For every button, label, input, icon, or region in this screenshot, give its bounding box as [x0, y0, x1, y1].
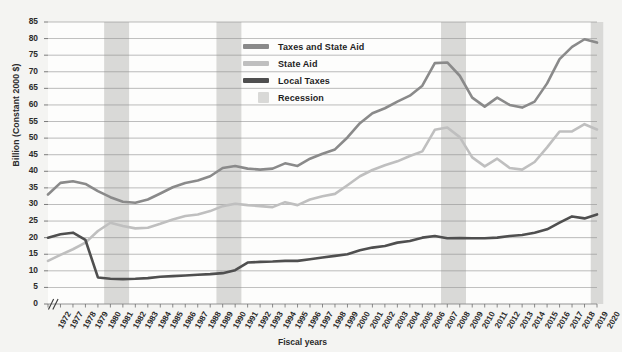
y-tick-label: 35 — [14, 182, 38, 192]
recession-band — [591, 22, 603, 304]
recession-band — [441, 22, 466, 304]
y-tick-label: 15 — [14, 248, 38, 258]
legend-swatch-line-icon — [243, 78, 269, 83]
y-tick-label: 75 — [14, 49, 38, 59]
legend-swatch-line-icon — [243, 44, 269, 49]
y-tick-label: 5 — [14, 281, 38, 291]
y-tick-label: 20 — [14, 232, 38, 242]
y-tick-label: 80 — [14, 33, 38, 43]
y-tick-label: 25 — [14, 215, 38, 225]
legend-item: Taxes and State Aid — [243, 38, 364, 55]
legend-label: Recession — [278, 93, 324, 103]
y-tick-label: 30 — [14, 198, 38, 208]
y-tick-label: 40 — [14, 165, 38, 175]
legend-label: Local Taxes — [278, 76, 330, 86]
legend-swatch-box-icon — [258, 92, 269, 103]
y-tick-label: 0 — [14, 298, 38, 308]
y-tick-label: 85 — [14, 16, 38, 26]
y-tick-label: 65 — [14, 82, 38, 92]
legend-item: Recession — [243, 89, 364, 106]
chart-legend: Taxes and State AidState AidLocal TaxesR… — [243, 38, 364, 106]
recession-band — [216, 22, 241, 304]
recession-band — [104, 22, 129, 304]
legend-item: Local Taxes — [243, 72, 364, 89]
legend-label: Taxes and State Aid — [278, 42, 364, 52]
y-tick-label: 50 — [14, 132, 38, 142]
legend-label: State Aid — [278, 59, 318, 69]
y-tick-label: 55 — [14, 116, 38, 126]
legend-swatch-line-icon — [243, 61, 269, 66]
y-tick-label: 60 — [14, 99, 38, 109]
x-axis-label: Fiscal years — [0, 337, 605, 347]
legend-item: State Aid — [243, 55, 364, 72]
y-tick-label: 10 — [14, 265, 38, 275]
y-tick-label: 70 — [14, 66, 38, 76]
y-tick-label: 45 — [14, 149, 38, 159]
